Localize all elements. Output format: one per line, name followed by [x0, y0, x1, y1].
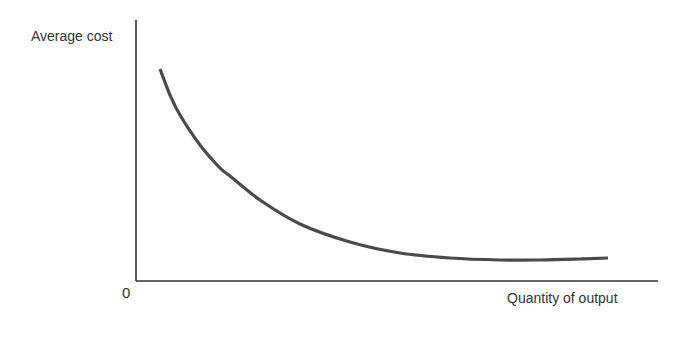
x-axis-label: Quantity of output [507, 291, 618, 305]
origin-label: 0 [122, 285, 130, 300]
y-axis-label: Average cost [31, 29, 112, 43]
average-cost-curve [160, 69, 608, 260]
average-cost-chart: Average cost Quantity of output 0 [0, 0, 687, 347]
